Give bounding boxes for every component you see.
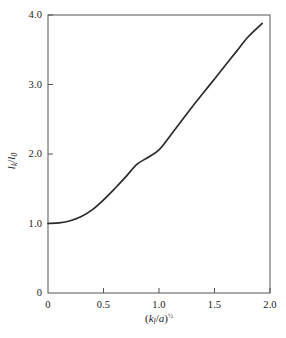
y-axis-label-sub2: 0 — [10, 153, 19, 157]
y-axis-tick-label: 4.0 — [0, 10, 42, 21]
y-axis-label-var2: l — [5, 157, 17, 160]
x-axis-tick-label: 1.0 — [152, 300, 165, 311]
x-axis-tick-label: 0 — [45, 300, 50, 311]
plot-frame — [48, 15, 270, 293]
y-axis-tick-label: 0 — [0, 288, 42, 299]
y-axis-tick-label: 3.0 — [0, 79, 42, 90]
x-axis-tick-label: 0.5 — [97, 300, 110, 311]
x-axis-tick-label: 1.5 — [208, 300, 221, 311]
y-axis-label-sub1: k — [10, 163, 19, 166]
chart-figure: 01.02.03.04.0 00.51.01.52.0 (kl/a)½ lk/l… — [0, 0, 286, 338]
y-axis-label: lk/l0 — [6, 153, 18, 169]
x-axis-label-exponent: ½ — [168, 312, 173, 319]
y-axis-label-slash: / — [5, 160, 17, 163]
x-axis-tick-label: 2.0 — [263, 300, 276, 311]
y-axis-tick-label: 1.0 — [0, 218, 42, 229]
y-axis-label-var1: l — [5, 166, 17, 169]
plot-canvas — [0, 0, 286, 338]
x-axis-label: (kl/a)½ — [145, 313, 173, 325]
